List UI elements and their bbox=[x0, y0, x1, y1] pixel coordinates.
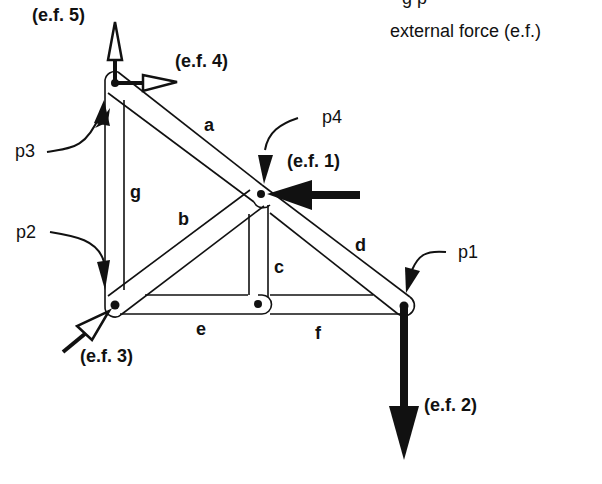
truss-diagram bbox=[0, 0, 602, 484]
p1-pointer-head-icon bbox=[405, 267, 420, 293]
pin-bottom-mid bbox=[254, 300, 262, 308]
ef1-arrow-icon bbox=[267, 180, 360, 210]
ef1-label: (e.f. 1) bbox=[287, 152, 340, 170]
ef3-label: (e.f. 3) bbox=[80, 347, 133, 365]
member-f-label: f bbox=[315, 324, 321, 342]
member-c-label: c bbox=[274, 258, 284, 276]
pin-p4 bbox=[257, 190, 265, 198]
p3-pointer-line bbox=[47, 115, 100, 152]
member-f bbox=[270, 295, 400, 314]
member-g-label: g bbox=[130, 183, 141, 201]
p4-pointer-head-icon bbox=[258, 155, 273, 184]
p2-pointer-head-icon bbox=[97, 260, 110, 290]
ef2-arrow-icon bbox=[389, 306, 419, 460]
joint-p3-label: p3 bbox=[15, 142, 35, 160]
member-b-label: b bbox=[178, 210, 189, 228]
ef5-label: (e.f. 5) bbox=[32, 6, 85, 24]
joint-p1-label: p1 bbox=[458, 243, 478, 261]
joint-p2-label: p2 bbox=[16, 223, 36, 241]
ef4-label: (e.f. 4) bbox=[175, 52, 228, 70]
ef2-label: (e.f. 2) bbox=[424, 396, 477, 414]
p2-pointer-line bbox=[50, 232, 104, 262]
member-c bbox=[249, 205, 268, 297]
external-force-legend: external force (e.f.) bbox=[390, 22, 541, 40]
p4-pointer-line bbox=[265, 118, 298, 150]
cut-off-heading: g p bbox=[402, 0, 427, 9]
joint-p4-label: p4 bbox=[322, 108, 342, 126]
member-e-label: e bbox=[196, 320, 206, 338]
p1-pointer-line bbox=[412, 252, 446, 270]
member-a-label: a bbox=[204, 116, 214, 134]
member-d-label: d bbox=[355, 236, 366, 254]
pin-p2 bbox=[111, 301, 120, 310]
